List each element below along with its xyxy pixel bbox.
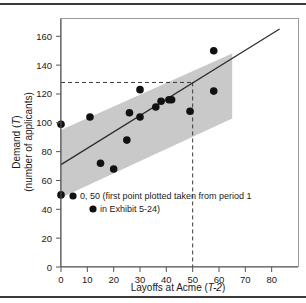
data-point bbox=[210, 87, 218, 95]
annotation-marker-icon-2 bbox=[89, 205, 96, 212]
annotation-text-line2: in Exhibit 5-24) bbox=[100, 204, 160, 214]
y-axis-title-line1-close: ) bbox=[11, 115, 22, 118]
x-axis-title-close: ) bbox=[222, 282, 225, 293]
x-tick-label: 80 bbox=[266, 274, 277, 285]
confidence-band-shape bbox=[61, 54, 232, 198]
data-point bbox=[123, 136, 131, 144]
top-rule-divider bbox=[0, 3, 306, 5]
data-point bbox=[97, 159, 105, 167]
y-tick-label: 120 bbox=[36, 88, 52, 99]
data-point bbox=[168, 96, 176, 104]
data-point bbox=[126, 109, 134, 117]
x-tick-label: 20 bbox=[108, 274, 119, 285]
chart-svg: 020406080100120140160 01020304050607080 … bbox=[0, 10, 306, 295]
y-axis-title-line1-plain: Demand ( bbox=[11, 124, 22, 169]
data-point bbox=[152, 103, 160, 111]
data-point bbox=[186, 107, 194, 115]
x-axis-title-plain: Layoffs at Acme ( bbox=[131, 282, 209, 293]
y-axis-ticks: 020406080100120140160 bbox=[36, 31, 61, 273]
data-point bbox=[136, 86, 144, 94]
x-axis-title: Layoffs at Acme (T-2) bbox=[131, 282, 226, 293]
y-tick-label: 20 bbox=[41, 233, 52, 244]
scatter-plot: 020406080100120140160 01020304050607080 … bbox=[0, 10, 306, 295]
bottom-rule-divider bbox=[0, 296, 306, 298]
data-point bbox=[86, 113, 94, 121]
annotation-marker-icon-1 bbox=[69, 192, 76, 199]
annotation-text-line1: 0, 50 (first point plotted taken from pe… bbox=[80, 191, 252, 201]
y-tick-label: 0 bbox=[47, 262, 52, 273]
data-point bbox=[110, 165, 118, 173]
y-tick-label: 100 bbox=[36, 117, 52, 128]
x-tick-label: 10 bbox=[82, 274, 93, 285]
x-tick-label: 0 bbox=[58, 274, 63, 285]
x-axis-title-italic: T-2 bbox=[208, 282, 223, 293]
figure-container: 020406080100120140160 01020304050607080 … bbox=[0, 0, 306, 303]
data-point bbox=[210, 47, 218, 55]
y-tick-label: 80 bbox=[41, 146, 52, 157]
confidence-band bbox=[61, 54, 232, 198]
y-tick-label: 160 bbox=[36, 31, 52, 42]
x-tick-label: 70 bbox=[240, 274, 251, 285]
annotation-group: 0, 50 (first point plotted taken from pe… bbox=[69, 191, 251, 214]
data-point bbox=[157, 97, 165, 105]
y-axis-title-line1: Demand (T) bbox=[11, 115, 22, 168]
y-tick-label: 60 bbox=[41, 175, 52, 186]
y-axis-title-line2: (number of applicants) bbox=[23, 92, 34, 192]
y-tick-label: 140 bbox=[36, 60, 52, 71]
y-axis-title: Demand (T) (number of applicants) bbox=[11, 92, 34, 192]
y-tick-label: 40 bbox=[41, 204, 52, 215]
data-point bbox=[136, 113, 144, 121]
